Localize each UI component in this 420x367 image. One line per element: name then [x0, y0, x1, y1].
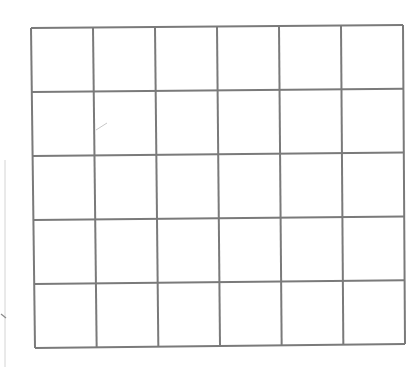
grid-cell-r2-c3 — [156, 90, 219, 154]
grid-cell-r1-c5 — [279, 26, 341, 90]
grid-cell-r3-c4 — [218, 154, 280, 218]
grid-cell-r5-c4 — [219, 281, 281, 346]
grid-cell-r2-c6 — [341, 89, 403, 153]
scanned-page — [0, 0, 420, 367]
grid-cell-r1-c2 — [93, 27, 156, 91]
grid-cell-r3-c6 — [342, 153, 404, 217]
grid-cell-r1-c1 — [31, 28, 94, 93]
grid-cell-r5-c3 — [158, 282, 220, 347]
grid-cell-r5-c5 — [281, 281, 343, 346]
grid-cell-r1-c6 — [341, 25, 403, 89]
grid-cell-r4-c4 — [219, 218, 281, 283]
grid-cell-r2-c2 — [94, 91, 157, 156]
grid-cell-r4-c3 — [157, 218, 219, 283]
grid-cell-r4-c5 — [281, 217, 343, 281]
grid-cell-r4-c2 — [95, 219, 157, 284]
grid-cell-r5-c1 — [34, 283, 96, 348]
grid-cell-r3-c5 — [280, 153, 342, 217]
grid-cell-r1-c3 — [155, 27, 218, 91]
grid-cell-r3-c3 — [156, 154, 218, 219]
grid-cell-r2-c1 — [32, 91, 95, 156]
grid-cell-r5-c6 — [343, 280, 405, 344]
grid-cell-r2-c4 — [218, 90, 280, 154]
grid-cell-r1-c4 — [217, 26, 280, 90]
grid-cell-r5-c2 — [96, 283, 158, 348]
grid-cell-r2-c5 — [280, 89, 342, 153]
grid-cell-r3-c2 — [94, 155, 157, 220]
grid-cell-r3-c1 — [33, 155, 96, 220]
grid-diagram — [0, 0, 420, 367]
grid-cell-r4-c1 — [33, 219, 96, 284]
grid-cell-r4-c6 — [342, 216, 404, 280]
